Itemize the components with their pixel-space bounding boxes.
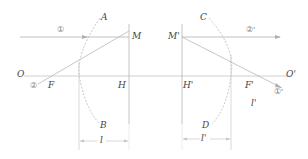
arc-C-D [209,18,232,124]
label-ray-1-prime: ①' [274,88,283,96]
label-O-prime: O' [286,70,296,79]
diagram-canvas [0,0,308,159]
label-O: O [17,70,24,79]
label-l: l [100,136,103,145]
label-H-prime: H' [183,81,193,90]
label-M-prime: M' [168,32,180,41]
label-C: C [200,13,207,22]
dim-l-prime-arrow-left [182,138,187,141]
label-F: F [48,81,54,90]
label-A: A [101,13,108,22]
dim-l-prime-arrow-right [226,138,231,141]
ray-1-arrow [82,35,88,39]
dim-l-arrow-right [124,140,129,143]
label-F-prime: F' [245,81,254,90]
label-l-prime-side: l' [251,99,256,108]
label-H: H [118,81,126,90]
label-ray-2-prime: ②' [246,26,255,34]
ray-2-prime-arrow [275,35,281,39]
arc-A-B [79,18,100,124]
optics-diagram: A M ① O ② F H B l C M' ②' O' H' F' ①' l'… [0,0,308,159]
label-B: B [100,121,107,130]
dim-l-arrow-left [79,140,84,143]
label-ray-2: ② [30,82,37,90]
label-M: M [132,32,141,41]
label-D: D [202,121,209,130]
label-ray-1: ① [57,26,64,34]
label-l-prime: l' [201,134,206,143]
